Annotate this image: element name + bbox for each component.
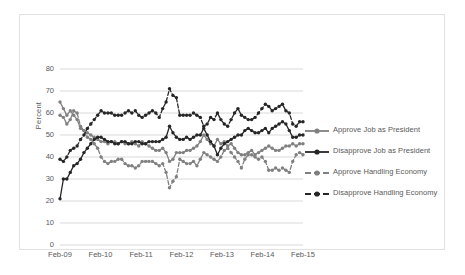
legend-item[interactable]: Disapprove Job as President xyxy=(304,142,446,158)
data-point xyxy=(154,149,157,152)
data-point xyxy=(65,155,68,158)
legend-item-label: Approve Handling Economy xyxy=(333,167,427,176)
data-point xyxy=(192,147,195,150)
data-point xyxy=(250,153,253,156)
x-axis-tick-label: Feb-14 xyxy=(242,250,284,259)
data-point xyxy=(199,116,202,119)
x-axis-tick-label: Feb-10 xyxy=(80,250,122,259)
data-point xyxy=(264,103,267,106)
data-point xyxy=(158,140,161,143)
data-point xyxy=(161,138,164,141)
data-point xyxy=(257,151,260,154)
gridlines xyxy=(60,69,303,245)
data-point xyxy=(288,111,291,114)
data-point xyxy=(281,147,284,150)
data-point xyxy=(281,120,284,123)
data-point xyxy=(233,111,236,114)
data-point xyxy=(250,118,253,121)
data-point xyxy=(229,151,232,154)
data-point xyxy=(288,129,291,132)
data-point xyxy=(281,103,284,106)
data-point xyxy=(247,127,250,130)
data-point xyxy=(154,162,157,165)
data-point xyxy=(243,153,246,156)
data-point xyxy=(127,142,130,145)
data-point xyxy=(113,142,116,145)
data-point xyxy=(199,133,202,136)
data-point xyxy=(223,149,226,152)
data-point xyxy=(72,164,75,167)
data-point xyxy=(294,125,297,128)
data-point xyxy=(140,116,143,119)
legend-key-icon xyxy=(304,165,330,177)
data-point xyxy=(257,111,260,114)
data-point xyxy=(144,142,147,145)
data-point xyxy=(58,197,61,200)
data-point xyxy=(247,153,250,156)
data-point xyxy=(89,138,92,141)
data-point xyxy=(236,107,239,110)
data-point xyxy=(178,114,181,117)
legend-item[interactable]: Disapprove Handling Economy xyxy=(304,184,446,200)
data-point xyxy=(65,122,68,125)
data-point xyxy=(89,133,92,136)
data-point xyxy=(116,114,119,117)
data-point xyxy=(277,122,280,125)
data-point xyxy=(202,151,205,154)
data-point xyxy=(274,166,277,169)
data-point xyxy=(240,114,243,117)
data-point xyxy=(298,133,301,136)
legend-item[interactable]: Approve Job as President xyxy=(304,121,446,137)
data-point xyxy=(223,122,226,125)
data-point xyxy=(274,149,277,152)
data-point xyxy=(130,142,133,145)
x-axis-tick-label: Feb-11 xyxy=(120,250,162,259)
data-point xyxy=(212,144,215,147)
data-point xyxy=(199,158,202,161)
data-point xyxy=(116,158,119,161)
data-point xyxy=(110,140,113,143)
data-point xyxy=(182,138,185,141)
data-point xyxy=(171,180,174,183)
data-point xyxy=(185,149,188,152)
data-point xyxy=(144,160,147,163)
data-point xyxy=(120,140,123,143)
data-point xyxy=(62,160,65,163)
data-point xyxy=(151,147,154,150)
data-point xyxy=(93,118,96,121)
chart-container: Percent 01020304050607080 Feb-09Feb-10Fe… xyxy=(19,14,445,250)
data-point xyxy=(168,186,171,189)
data-point xyxy=(236,151,239,154)
data-point xyxy=(144,114,147,117)
data-point xyxy=(69,149,72,152)
data-point xyxy=(188,162,191,165)
data-point xyxy=(82,133,85,136)
data-point xyxy=(195,144,198,147)
data-point xyxy=(164,171,167,174)
data-point xyxy=(147,144,150,147)
data-point xyxy=(212,158,215,161)
data-point xyxy=(247,118,250,121)
legend-item[interactable]: Approve Handling Economy xyxy=(304,163,446,179)
data-point xyxy=(175,175,178,178)
data-point xyxy=(134,109,137,112)
data-point xyxy=(161,107,164,110)
data-point xyxy=(69,109,72,112)
data-point xyxy=(96,136,99,139)
legend-item-label: Approve Job as President xyxy=(333,125,420,134)
data-point xyxy=(75,111,78,114)
data-point xyxy=(168,125,171,128)
data-point xyxy=(229,138,232,141)
data-point xyxy=(291,142,294,145)
x-axis-tick-label: Feb-13 xyxy=(201,250,243,259)
data-point xyxy=(216,138,219,141)
data-point xyxy=(151,140,154,143)
data-point xyxy=(229,142,232,145)
data-point xyxy=(58,114,61,117)
data-point xyxy=(281,166,284,169)
data-point xyxy=(205,133,208,136)
data-point xyxy=(236,160,239,163)
data-point xyxy=(188,138,191,141)
data-point xyxy=(233,155,236,158)
data-point xyxy=(154,140,157,143)
